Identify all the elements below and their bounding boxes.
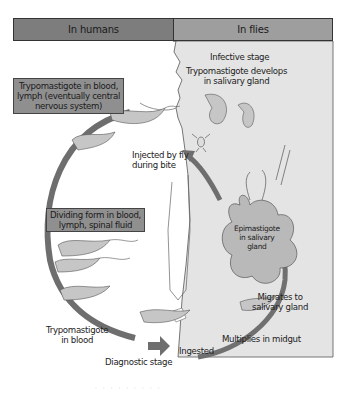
figure-caption: · · · · · · · · ·	[95, 384, 161, 391]
diagnostic-arrow	[148, 336, 170, 356]
label-multiplies-in-midgut: Multiplies in midgut	[222, 334, 301, 344]
label-box-trypomastigote-blood-lymph: Trypomastigote in blood, lymph (eventual…	[13, 78, 124, 114]
label-ingested: Ingested	[179, 346, 214, 356]
label-migrates-to-salivary-gland: Migrates to salivary gland	[252, 292, 308, 312]
label-diagnostic-stage: Diagnostic stage	[105, 357, 172, 367]
label-trypomastigote-in-blood: Trypomastigote in blood	[46, 325, 108, 345]
label-injected-by-fly: Injected by fly during bite	[132, 150, 189, 170]
label-box-dividing-form: Dividing form in blood, lymph, spinal fl…	[46, 208, 145, 232]
label-trypomastigote-develops: Trypomastigote develops in salivary glan…	[186, 66, 287, 86]
label-infective-stage: Infective stage	[210, 52, 269, 62]
label-epimastigote: Epimastigote in salivary gland	[234, 224, 280, 251]
header-in-humans: In humans	[13, 18, 174, 41]
header-in-flies: In flies	[173, 18, 333, 41]
